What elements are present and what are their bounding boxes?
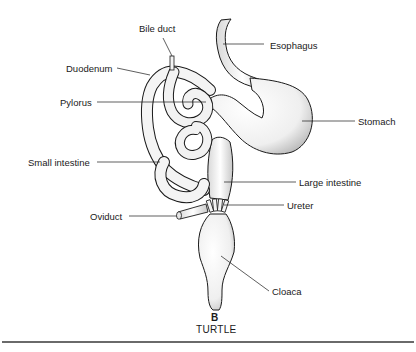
oviduct-organ	[177, 204, 209, 219]
label-bile-duct: Bile duct	[139, 23, 175, 34]
label-pylorus: Pylorus	[60, 97, 92, 108]
figure-title: TURTLE	[196, 324, 237, 335]
bottom-divider	[2, 341, 414, 343]
panel-letter: B	[211, 312, 218, 323]
ureter-organ	[206, 199, 229, 213]
bile-duct-organ	[170, 56, 174, 70]
label-stomach: Stomach	[358, 116, 396, 127]
label-cloaca: Cloaca	[272, 286, 302, 297]
large-intestine-organ	[208, 137, 233, 200]
label-ureter: Ureter	[287, 200, 313, 211]
label-duodenum: Duodenum	[66, 63, 112, 74]
turtle-anatomy-diagram	[0, 0, 416, 352]
label-large-intestine: Large intestine	[299, 177, 361, 188]
small-intestine-organ	[147, 72, 210, 198]
label-oviduct: Oviduct	[90, 211, 122, 222]
label-small-intestine: Small intestine	[28, 157, 90, 168]
label-esophagus: Esophagus	[270, 40, 318, 51]
